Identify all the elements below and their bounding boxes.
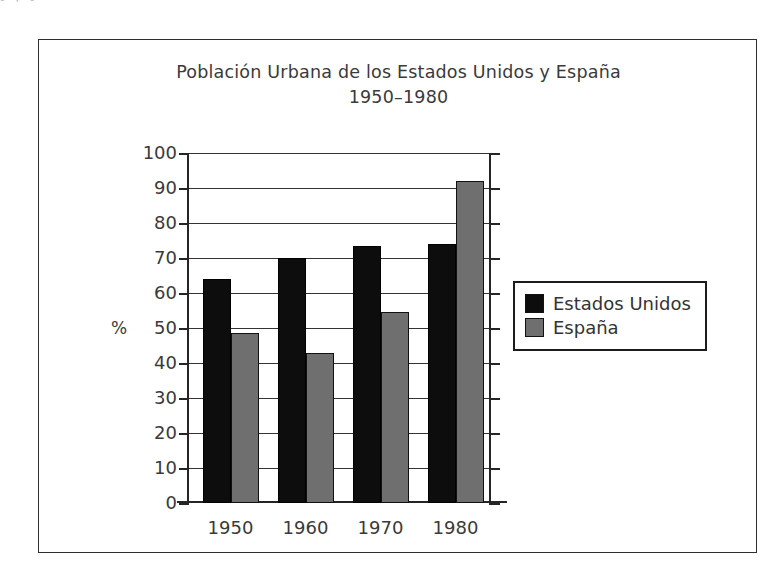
figure-frame: Población Urbana de los Estados Unidos y… [38,39,757,553]
legend-swatch-espana [525,318,544,337]
bar-estados-unidos-1970 [353,246,381,503]
y-axis-tick [179,468,189,470]
y-axis-tick-right [489,258,500,260]
x-axis-tick-label: 1950 [208,517,254,538]
y-axis-tick-label: 60 [154,284,177,302]
y-axis-tick-label: 90 [154,179,177,197]
y-axis-tick-right [489,293,500,295]
legend-item: España [525,317,691,338]
y-axis-tick [179,503,189,505]
legend-item: Estados Unidos [525,293,691,314]
plot-area: % 0102030405060708090100 195019601970198… [187,153,491,503]
y-axis-tick-right [489,398,500,400]
y-axis-tick-right [489,153,500,155]
y-axis-tick-label: 10 [154,459,177,477]
y-axis-tick-label: 30 [154,389,177,407]
chart-title-line-1: Población Urbana de los Estados Unidos y… [39,60,758,85]
x-axis-tick-label: 1980 [433,517,479,538]
y-axis-title: % [111,318,127,338]
page-text-fragment: l y l [0,0,778,2]
y-axis-tick [179,293,189,295]
y-axis-tick [179,258,189,260]
y-axis-tick-right [489,433,500,435]
y-axis-tick [179,363,189,365]
y-axis-tick-label: 40 [154,354,177,372]
legend-label-estados-unidos: Estados Unidos [553,293,691,314]
y-axis-tick-label: 80 [154,214,177,232]
legend-label-espana: España [553,317,619,338]
y-axis-tick [179,153,189,155]
gridline [189,188,489,189]
legend: Estados Unidos España [513,281,707,351]
y-axis-tick-label: 20 [154,424,177,442]
y-axis-tick-right [489,328,500,330]
bar-estados-unidos-1950 [203,279,231,503]
x-axis-tick-label: 1970 [358,517,404,538]
bar-estados-unidos-1960 [278,258,306,503]
y-axis-tick-label: 0 [166,494,177,512]
y-axis-tick-right [489,468,500,470]
y-axis-tick [179,398,189,400]
y-axis-tick-label: 50 [154,319,177,337]
y-axis-tick [179,188,189,190]
y-axis-tick [179,433,189,435]
y-axis-tick-label: 70 [154,249,177,267]
y-axis-tick [179,223,189,225]
y-axis-tick-label: 100 [143,144,177,162]
gridline [189,153,489,154]
bar-españa-1980 [456,181,484,503]
chart-title: Población Urbana de los Estados Unidos y… [39,60,758,110]
legend-swatch-estados-unidos [525,294,544,313]
gridline [189,223,489,224]
y-axis-tick [179,328,189,330]
bar-estados-unidos-1980 [428,244,456,503]
bar-españa-1960 [306,353,334,504]
chart-title-line-2: 1950–1980 [39,85,758,110]
bar-españa-1950 [231,333,259,503]
y-axis-tick-right [489,188,500,190]
y-axis-tick-right [489,223,500,225]
x-axis-tick-label: 1960 [283,517,329,538]
y-axis-tick-right [489,503,500,505]
bar-españa-1970 [381,312,409,503]
y-axis-tick-right [489,363,500,365]
